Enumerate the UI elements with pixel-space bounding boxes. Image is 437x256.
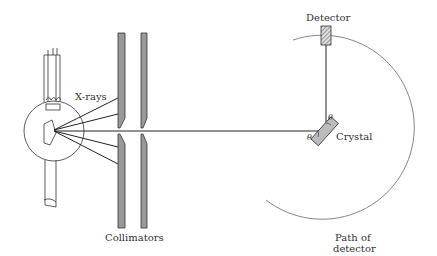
detector-label: Detector [306, 12, 351, 23]
theta-incident-label: θ [307, 133, 312, 142]
path-label-line1: Path of [335, 232, 372, 243]
xrays-label: X-rays [75, 91, 107, 102]
theta-reflected-label: θ [328, 113, 333, 122]
path-label-line2: detector [333, 243, 376, 254]
crystal-label: Crystal [336, 131, 372, 142]
collimators-label: Collimators [105, 232, 164, 243]
bragg-diffraction-diagram: X-rays Collimators Detector Crystal Path… [0, 0, 437, 256]
detector-path-circle [266, 35, 414, 219]
xray-beams [54, 98, 326, 164]
xray-tube-icon [24, 48, 84, 207]
detector-icon [321, 26, 331, 45]
